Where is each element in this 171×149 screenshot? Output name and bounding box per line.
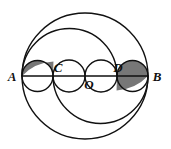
point-label-O: O	[84, 77, 94, 92]
point-label-A: A	[7, 69, 17, 84]
point-label-D: D	[112, 60, 123, 75]
geometry-figure: A C O D B	[0, 0, 171, 149]
point-label-B: B	[152, 69, 162, 84]
shaded-lune-left	[22, 61, 53, 76]
point-label-C: C	[54, 60, 63, 75]
